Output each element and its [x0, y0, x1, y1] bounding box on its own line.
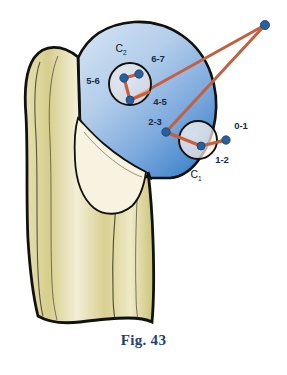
label-interval-6-7: 6-7	[151, 53, 165, 64]
dot-hinge-2-3[interactable]	[162, 128, 170, 136]
dot-outer-0-1[interactable]	[222, 136, 230, 144]
label-interval-2-3: 2-3	[148, 116, 162, 127]
label-interval-4-5: 4-5	[153, 96, 167, 107]
label-interval-5-6: 5-6	[86, 75, 100, 86]
dot-c2-upper-left[interactable]	[120, 74, 128, 82]
dot-c2-upper-right[interactable]	[135, 70, 143, 78]
femur-anatomical-diagram: C2 C1 5-6 6-7 4-5 2-3 0-1 1-2	[0, 0, 287, 375]
label-c1: C1	[190, 168, 202, 182]
figure-caption: Fig. 43	[0, 332, 287, 349]
dot-c1-inner[interactable]	[197, 142, 205, 150]
dot-apex-vertex[interactable]	[260, 20, 269, 29]
label-interval-0-1: 0-1	[234, 120, 248, 131]
dot-c2-lower[interactable]	[126, 96, 134, 104]
figure-container: C2 C1 5-6 6-7 4-5 2-3 0-1 1-2 Fig. 43	[0, 0, 287, 375]
label-interval-1-2: 1-2	[215, 154, 229, 165]
